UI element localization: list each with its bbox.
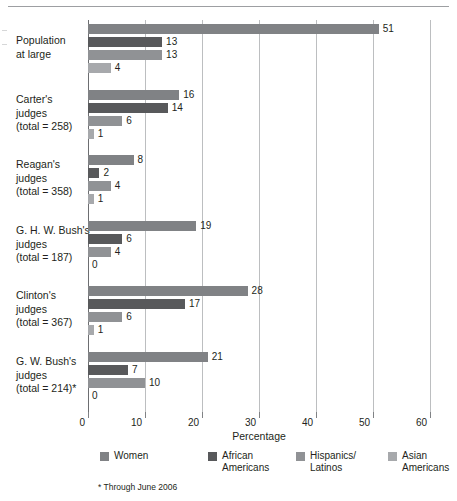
bar[interactable] — [88, 116, 122, 126]
x-tick-label: 20 — [188, 416, 202, 430]
bar-value-label: 17 — [189, 296, 200, 312]
bar-value-label: 19 — [200, 218, 211, 234]
bar[interactable] — [88, 312, 122, 322]
x-axis-ticks: 0102030405060 — [88, 412, 430, 430]
bar[interactable] — [88, 155, 134, 165]
bar-row: 16 — [88, 90, 430, 100]
bar[interactable] — [88, 352, 208, 362]
category-label: G. H. W. Bush'sjudges(total = 187) — [16, 224, 96, 265]
legend-item[interactable]: Hispanics/ Latinos — [296, 450, 356, 474]
x-tick-label: 50 — [359, 416, 373, 430]
category-label-line: Population — [16, 34, 96, 48]
bar-row: 13 — [88, 37, 430, 47]
category-label-line: Clinton's — [16, 289, 96, 303]
top-divider-rule — [8, 6, 449, 7]
x-tick-mark — [88, 412, 89, 418]
bar-value-label: 0 — [92, 257, 98, 273]
plot-area: 5113134161461824119640281761217100 — [88, 20, 430, 412]
bar[interactable] — [88, 37, 162, 47]
category-label-line: G. W. Bush's — [16, 355, 96, 369]
bar[interactable] — [88, 129, 94, 139]
legend-label: Hispanics/ Latinos — [310, 450, 356, 474]
bar-value-label: 7 — [132, 362, 138, 378]
bar-group: 5113134 — [88, 24, 430, 76]
bar[interactable] — [88, 247, 111, 257]
category-label-line: judges — [16, 369, 96, 383]
bar-row: 21 — [88, 352, 430, 362]
legend-item[interactable]: Women — [100, 450, 148, 462]
category-label-line: (total = 258) — [16, 120, 96, 134]
bar-group: 281761 — [88, 286, 430, 338]
bar-value-label: 4 — [115, 244, 121, 260]
bar[interactable] — [88, 50, 162, 60]
bar[interactable] — [88, 90, 179, 100]
bar-row: 4 — [88, 181, 430, 191]
bar[interactable] — [88, 103, 168, 113]
bar-value-label: 8 — [138, 152, 144, 168]
category-label-line: Carter's — [16, 93, 96, 107]
bar-value-label: 0 — [92, 388, 98, 404]
category-label-line: at large — [16, 48, 96, 62]
bar[interactable] — [88, 234, 122, 244]
bar-value-label: 6 — [126, 113, 132, 129]
bar-row: 10 — [88, 378, 430, 388]
chart-legend: WomenAfrican AmericansHispanics/ Latinos… — [100, 450, 440, 476]
bar[interactable] — [88, 168, 99, 178]
legend-item[interactable]: Asian Americans — [388, 450, 449, 474]
bar[interactable] — [88, 221, 196, 231]
bar-row: 13 — [88, 50, 430, 60]
category-label-line: (total = 367) — [16, 316, 96, 330]
bar-row: 7 — [88, 365, 430, 375]
category-label-line: judges — [16, 238, 96, 252]
bar[interactable] — [88, 286, 248, 296]
bar[interactable] — [88, 299, 185, 309]
category-label: Populationat large — [16, 34, 96, 61]
legend-item[interactable]: African Americans — [208, 450, 269, 474]
bar-value-label: 4 — [115, 60, 121, 76]
category-label: G. W. Bush'sjudges(total = 214)* — [16, 355, 96, 396]
chart-figure: Populationat largeCarter'sjudges(total =… — [0, 0, 457, 501]
gridline-60 — [430, 20, 431, 412]
x-tick-label: 40 — [302, 416, 316, 430]
legend-swatch-icon — [296, 452, 305, 461]
bar-value-label: 14 — [172, 100, 183, 116]
category-label-line: judges — [16, 172, 96, 186]
bar-row: 14 — [88, 103, 430, 113]
bar-group: 161461 — [88, 90, 430, 142]
bar[interactable] — [88, 378, 145, 388]
legend-swatch-icon — [100, 452, 109, 461]
bar-value-label: 21 — [212, 349, 223, 365]
bar-row: 1 — [88, 325, 430, 335]
legend-label: Asian Americans — [402, 450, 449, 474]
bar[interactable] — [88, 365, 128, 375]
x-tick-label: 30 — [245, 416, 259, 430]
category-label: Clinton'sjudges(total = 367) — [16, 289, 96, 330]
x-tick-mark — [259, 412, 260, 418]
category-label: Carter'sjudges(total = 258) — [16, 93, 96, 134]
x-axis-title: Percentage — [88, 430, 430, 442]
category-label-line: (total = 187) — [16, 251, 96, 265]
bar-row: 1 — [88, 129, 430, 139]
category-label-line: (total = 214)* — [16, 382, 96, 396]
x-tick-label: 10 — [131, 416, 145, 430]
bar-value-label: 6 — [126, 309, 132, 325]
x-tick-mark — [430, 412, 431, 418]
bar[interactable] — [88, 194, 94, 204]
bar[interactable] — [88, 24, 379, 34]
bar-row: 6 — [88, 116, 430, 126]
bar-value-label: 10 — [149, 375, 160, 391]
bar-row: 2 — [88, 168, 430, 178]
bar[interactable] — [88, 63, 111, 73]
legend-swatch-icon — [208, 452, 217, 461]
bar-row: 4 — [88, 63, 430, 73]
bar-row: 51 — [88, 24, 430, 34]
bar-row: 4 — [88, 247, 430, 257]
bar-row: 0 — [88, 391, 430, 401]
bar-value-label: 28 — [252, 283, 263, 299]
bar-value-label: 1 — [98, 191, 104, 207]
bar-group: 19640 — [88, 221, 430, 273]
bar[interactable] — [88, 181, 111, 191]
bar[interactable] — [88, 325, 94, 335]
category-label-line: (total = 358) — [16, 185, 96, 199]
bar-group: 8241 — [88, 155, 430, 207]
